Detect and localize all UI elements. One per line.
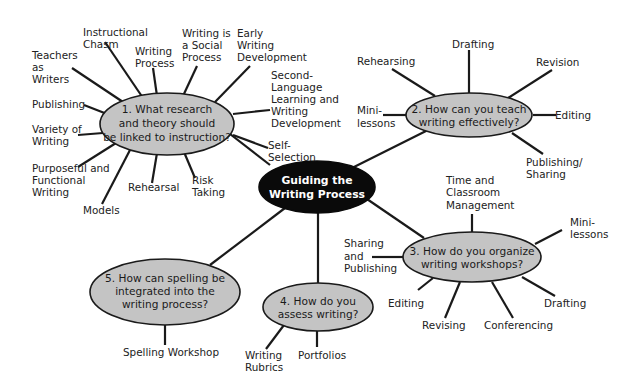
subtopic-drafting-3: Drafting bbox=[544, 297, 586, 309]
subtopic-purposeful-functional-writing: Purposeful and Functional Writing bbox=[32, 162, 110, 198]
label-line: Revising bbox=[422, 319, 466, 331]
question-node-2: 2. How can you teach writing effectively… bbox=[406, 93, 532, 137]
subtopic-risk-taking: Risk Taking bbox=[191, 174, 225, 198]
label-line: Spelling Workshop bbox=[123, 346, 219, 358]
hub-node: Guiding the Writing Process bbox=[259, 161, 375, 213]
label-line: Writing bbox=[135, 45, 172, 57]
label-line: Sharing bbox=[344, 237, 384, 249]
question-node-4: 4. How do you assess writing? bbox=[263, 283, 373, 331]
label-line: Conferencing bbox=[484, 319, 553, 331]
label-line: Rubrics bbox=[245, 361, 283, 373]
question-4-subtopics: Writing Rubrics Portfolios bbox=[245, 349, 346, 373]
label-line: Writing bbox=[32, 186, 69, 198]
label-line: Time and bbox=[445, 174, 494, 186]
label-line: Functional bbox=[32, 174, 85, 186]
subtopic-editing: Editing bbox=[555, 109, 591, 121]
label-line: Selection bbox=[268, 151, 316, 163]
question-node-1: 1. What research and theory should be li… bbox=[100, 93, 234, 155]
label-line: Mini- bbox=[357, 104, 382, 116]
question-1-line-1: 1. What research bbox=[122, 103, 213, 115]
label-line: Writers bbox=[32, 73, 69, 85]
subtopic-time-classroom-management: Time and Classroom Management bbox=[445, 174, 514, 211]
question-5-line-3: writing process? bbox=[122, 298, 208, 310]
label-line: a Social bbox=[182, 39, 222, 51]
subtopic-writing-process: Writing Process bbox=[135, 45, 174, 69]
label-line: lessons bbox=[570, 228, 608, 240]
question-5-subtopics: Spelling Workshop bbox=[123, 346, 219, 358]
label-line: Chasm bbox=[83, 38, 119, 50]
label-line: Process bbox=[135, 57, 174, 69]
subtopic-editing-3: Editing bbox=[388, 297, 424, 309]
subtopic-writing-social-process: Writing is a Social Process bbox=[182, 27, 231, 63]
question-1-line-2: and theory should bbox=[119, 117, 215, 129]
subtopic-publishing: Publishing bbox=[32, 98, 85, 110]
question-5-line-2: integrated into the bbox=[115, 285, 215, 297]
label-line: Self- bbox=[268, 139, 291, 151]
subtopic-variety-of-writing: Variety of Writing bbox=[32, 123, 82, 147]
subtopic-drafting: Drafting bbox=[452, 38, 494, 50]
label-line: Early bbox=[237, 27, 263, 39]
subtopic-publishing-sharing: Publishing/ Sharing bbox=[526, 156, 583, 180]
label-line: Rehearsing bbox=[357, 55, 415, 67]
label-line: Sharing bbox=[526, 168, 566, 180]
question-3-line-1: 3. How do you organize bbox=[410, 245, 535, 257]
subtopic-portfolios: Portfolios bbox=[298, 349, 346, 361]
label-line: Purposeful and bbox=[32, 162, 110, 174]
label-line: Instructional bbox=[83, 26, 148, 38]
label-line: Development bbox=[237, 51, 307, 63]
label-line: Writing is bbox=[182, 27, 231, 39]
subtopic-spelling-workshop: Spelling Workshop bbox=[123, 346, 219, 358]
label-line: Editing bbox=[388, 297, 424, 309]
question-3-line-2: writing workshops? bbox=[421, 258, 523, 270]
subtopic-second-language-learning: Second- Language Learning and Writing De… bbox=[271, 69, 341, 129]
question-node-3: 3. How do you organize writing workshops… bbox=[403, 232, 541, 282]
label-line: as bbox=[32, 61, 44, 73]
question-2-line-2: writing effectively? bbox=[419, 116, 520, 128]
subtopic-revising: Revising bbox=[422, 319, 466, 331]
label-line: Language bbox=[271, 81, 322, 93]
subtopic-mini-lessons-3: Mini- lessons bbox=[570, 216, 608, 240]
label-line: Development bbox=[271, 117, 341, 129]
label-line: Editing bbox=[555, 109, 591, 121]
question-1-line-3: be linked to instruction? bbox=[103, 131, 231, 143]
question-5-line-1: 5. How can spelling be bbox=[105, 272, 225, 284]
subtopic-rehearsing: Rehearsing bbox=[357, 55, 415, 67]
label-line: Publishing bbox=[32, 98, 85, 110]
label-line: Writing bbox=[245, 349, 282, 361]
concept-map: 1. What research and theory should be li… bbox=[0, 0, 634, 391]
label-line: Learning and bbox=[271, 93, 339, 105]
label-line: Risk bbox=[192, 174, 214, 186]
subtopic-models: Models bbox=[83, 204, 120, 216]
hub-title-line-1: Guiding the bbox=[281, 174, 352, 187]
label-line: Process bbox=[182, 51, 221, 63]
label-line: Rehearsal bbox=[128, 181, 179, 193]
subtopic-writing-rubrics: Writing Rubrics bbox=[245, 349, 283, 373]
subtopic-early-writing-development: Early Writing Development bbox=[237, 27, 307, 63]
label-line: Classroom bbox=[446, 186, 500, 198]
question-2-line-1: 2. How can you teach bbox=[412, 103, 527, 115]
subtopic-rehearsal: Rehearsal bbox=[128, 181, 179, 193]
label-line: Publishing/ bbox=[526, 156, 583, 168]
question-4-line-1: 4. How do you bbox=[280, 295, 356, 307]
label-line: Models bbox=[83, 204, 120, 216]
label-line: Mini- bbox=[570, 216, 595, 228]
label-line: Drafting bbox=[452, 38, 494, 50]
label-line: lessons bbox=[357, 117, 395, 129]
label-line: Management bbox=[446, 199, 514, 211]
subtopic-mini-lessons: Mini- lessons bbox=[357, 104, 395, 129]
label-line: Teachers bbox=[31, 49, 78, 61]
label-line: Drafting bbox=[544, 297, 586, 309]
label-line: Variety of bbox=[32, 123, 82, 135]
label-line: Second- bbox=[271, 69, 313, 81]
label-line: Taking bbox=[191, 186, 225, 198]
label-line: Writing bbox=[32, 135, 69, 147]
subtopic-teachers-as-writers: Teachers as Writers bbox=[31, 49, 78, 85]
label-line: Publishing bbox=[344, 262, 397, 274]
subtopic-conferencing: Conferencing bbox=[484, 319, 553, 331]
subtopic-revision: Revision bbox=[536, 56, 579, 68]
subtopic-sharing-and-publishing: Sharing and Publishing bbox=[344, 237, 397, 274]
question-node-5: 5. How can spelling be integrated into t… bbox=[90, 259, 240, 325]
label-line: Writing bbox=[237, 39, 274, 51]
hub-title-line-2: Writing Process bbox=[269, 188, 365, 201]
subtopic-self-selection: Self- Selection bbox=[268, 139, 316, 163]
